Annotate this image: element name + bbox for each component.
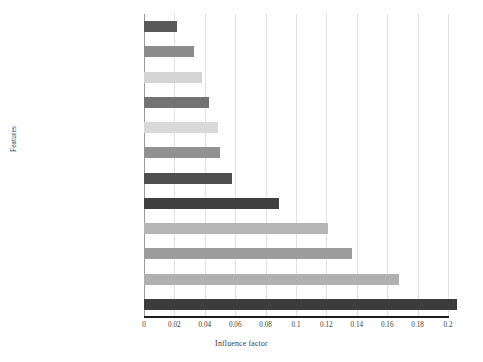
- y-axis-title: Features: [7, 109, 21, 169]
- bar: [144, 21, 177, 32]
- gridline: [448, 14, 449, 317]
- bar: [144, 248, 352, 259]
- bar: [144, 274, 399, 285]
- bar-row: [144, 292, 448, 317]
- bar: [144, 173, 232, 184]
- bar: [144, 299, 457, 310]
- bar-row: [144, 267, 448, 292]
- horizontal-bar-chart: Features Influence factor StudentsLocati…: [0, 0, 483, 362]
- bar: [144, 122, 218, 133]
- bar-row: [144, 191, 448, 216]
- x-axis-line: [144, 316, 449, 318]
- bar: [144, 46, 194, 57]
- bar: [144, 72, 202, 83]
- bar-row: [144, 39, 448, 64]
- bar: [144, 147, 220, 158]
- bar-row: [144, 140, 448, 165]
- x-axis-title: Influence factor: [0, 339, 483, 348]
- bar-row: [144, 216, 448, 241]
- bar: [144, 223, 328, 234]
- bar-row: [144, 65, 448, 90]
- bar: [144, 198, 279, 209]
- bar-row: [144, 90, 448, 115]
- x-tick-label: 0.2: [428, 321, 468, 329]
- bar-row: [144, 241, 448, 266]
- bar-row: [144, 115, 448, 140]
- bar-row: [144, 14, 448, 39]
- bar: [144, 97, 209, 108]
- plot-area: [144, 14, 448, 317]
- bar-row: [144, 166, 448, 191]
